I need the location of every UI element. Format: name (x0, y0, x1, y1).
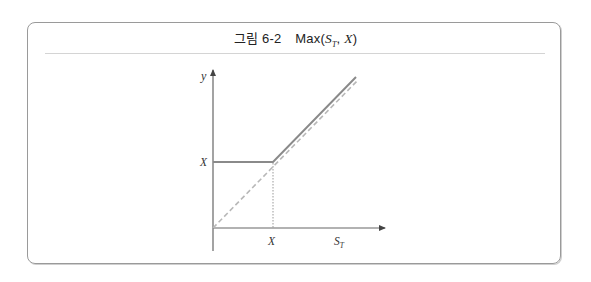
dashed-45-line (213, 80, 358, 228)
y-axis-label: y (200, 69, 207, 83)
payoff-line (213, 77, 356, 162)
x-tick-label: X (267, 235, 276, 247)
x-axis-label: ST (334, 235, 345, 250)
y-tick-label: X (199, 156, 208, 168)
payoff-chart: y X X ST (0, 0, 591, 282)
